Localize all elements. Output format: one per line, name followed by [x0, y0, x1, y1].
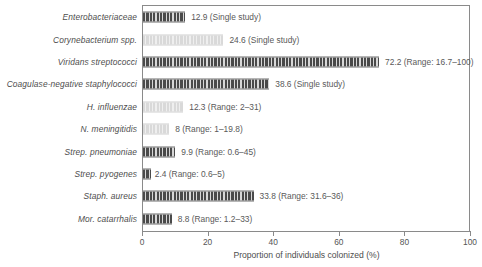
category-label: Strep. pneumoniae	[65, 147, 137, 157]
bar	[143, 146, 175, 157]
bar-row: Strep. pyogenes2.4 (Range: 0.6–5)	[0, 163, 482, 185]
x-axis-tick	[339, 232, 340, 236]
category-label: Viridans streptococci	[58, 57, 137, 67]
category-label: Mor. catarrhalis	[78, 214, 137, 224]
bar-value-label: 8 (Range: 1–19.8)	[175, 124, 243, 135]
bar	[143, 101, 183, 112]
bar-value-label: 33.8 (Range: 31.6–36)	[260, 191, 344, 202]
x-axis-tick	[142, 232, 143, 236]
x-axis-tick-label: 80	[400, 237, 409, 247]
bar-and-value: 12.3 (Range: 2–31)	[143, 101, 261, 112]
bar-value-label: 38.6 (Single study)	[275, 79, 345, 90]
bar-row: Corynebacterium spp.24.6 (Single study)	[0, 28, 482, 50]
x-axis-tick-label: 60	[334, 237, 343, 247]
category-label: Corynebacterium spp.	[53, 35, 137, 45]
bar-value-label: 24.6 (Single study)	[229, 34, 299, 45]
bar-value-label: 12.3 (Range: 2–31)	[189, 101, 261, 112]
x-axis-tick	[208, 232, 209, 236]
category-label: Coagulase-negative staphylococci	[7, 79, 137, 89]
x-axis-tick-label: 20	[203, 237, 212, 247]
x-axis-tick	[470, 232, 471, 236]
category-label: Enterobacteriaceae	[63, 12, 137, 22]
x-axis-tick	[273, 232, 274, 236]
bar	[143, 12, 185, 23]
category-label: H. influenzae	[87, 102, 137, 112]
x-axis-tick-label: 100	[463, 237, 477, 247]
x-axis-tick-label: 0	[140, 237, 145, 247]
bar-and-value: 2.4 (Range: 0.6–5)	[143, 168, 225, 179]
x-axis-title: Proportion of individuals colonized (%)	[142, 250, 471, 260]
bar	[143, 191, 254, 202]
x-axis-line	[142, 231, 471, 232]
bar	[143, 168, 151, 179]
bar-and-value: 72.2 (Range: 16.7–100)	[143, 56, 474, 67]
bar-and-value: 9.9 (Range: 0.6–45)	[143, 146, 256, 157]
bar-and-value: 24.6 (Single study)	[143, 34, 299, 45]
bar-value-label: 72.2 (Range: 16.7–100)	[385, 56, 473, 67]
bar	[143, 124, 169, 135]
x-axis-tick-label: 40	[269, 237, 278, 247]
bar-row: N. meningitidis8 (Range: 1–19.8)	[0, 118, 482, 140]
bar	[143, 213, 172, 224]
bar-and-value: 33.8 (Range: 31.6–36)	[143, 191, 343, 202]
bar-row: H. influenzae12.3 (Range: 2–31)	[0, 96, 482, 118]
bar	[143, 34, 223, 45]
bar-row: Viridans streptococci72.2 (Range: 16.7–1…	[0, 51, 482, 73]
bar-value-label: 9.9 (Range: 0.6–45)	[181, 146, 256, 157]
bar-value-label: 12.9 (Single study)	[191, 12, 261, 23]
bar-row: Strep. pneumoniae9.9 (Range: 0.6–45)	[0, 140, 482, 162]
bar-value-label: 8.8 (Range: 1.2–33)	[178, 213, 253, 224]
bar-and-value: 12.9 (Single study)	[143, 12, 261, 23]
bar-rows-container: Enterobacteriaceae12.9 (Single study)Cor…	[0, 0, 482, 232]
bar-and-value: 38.6 (Single study)	[143, 79, 345, 90]
bar-row: Staph. aureus33.8 (Range: 31.6–36)	[0, 185, 482, 207]
category-label: N. meningitidis	[81, 124, 137, 134]
bar-and-value: 8 (Range: 1–19.8)	[143, 124, 243, 135]
bar-row: Enterobacteriaceae12.9 (Single study)	[0, 6, 482, 28]
bar-chart: Enterobacteriaceae12.9 (Single study)Cor…	[0, 0, 482, 267]
bar	[143, 56, 379, 67]
x-axis-tick	[404, 232, 405, 236]
bar-row: Mor. catarrhalis8.8 (Range: 1.2–33)	[0, 208, 482, 230]
category-label: Strep. pyogenes	[75, 169, 138, 179]
category-label: Staph. aureus	[84, 191, 137, 201]
bar-and-value: 8.8 (Range: 1.2–33)	[143, 213, 252, 224]
bar	[143, 79, 269, 90]
bar-value-label: 2.4 (Range: 0.6–5)	[155, 168, 225, 179]
bar-row: Coagulase-negative staphylococci38.6 (Si…	[0, 73, 482, 95]
